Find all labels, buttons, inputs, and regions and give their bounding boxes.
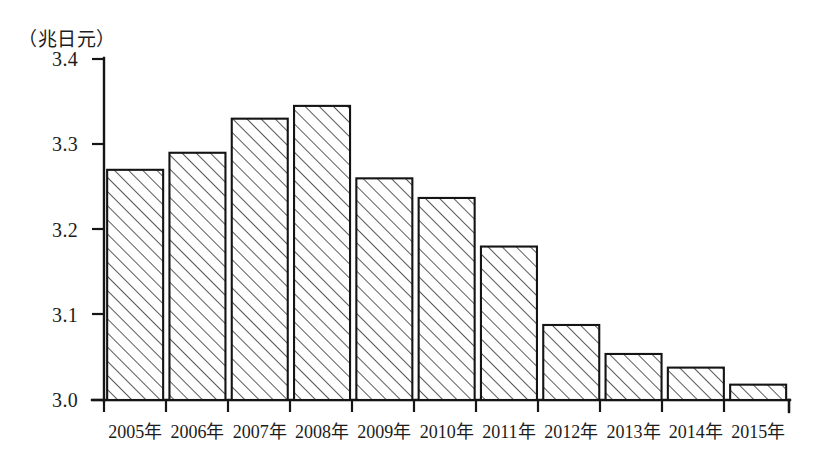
x-axis-tick-label: 2015年 (718, 421, 798, 443)
x-axis-tick-labels: 2005年2006年2007年2008年2009年2010年2011年2012年… (0, 0, 826, 471)
bar-chart: （兆日元） (0, 0, 826, 471)
